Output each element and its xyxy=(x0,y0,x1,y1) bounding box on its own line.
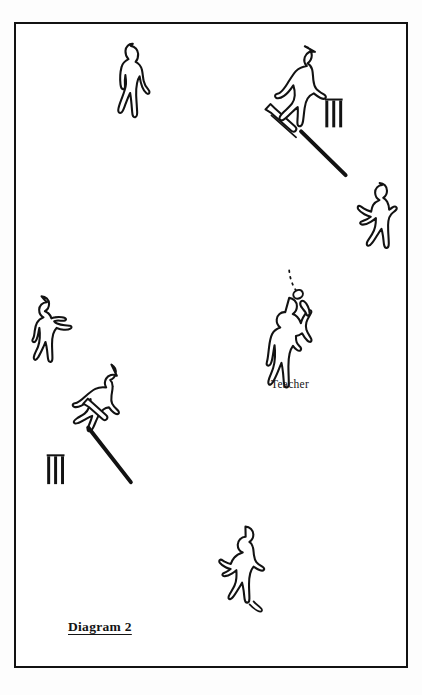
diagram-caption: Diagram 2 xyxy=(68,619,132,635)
figure-teacher xyxy=(267,298,312,388)
running-head-text xyxy=(186,0,418,5)
ball-trajectory-dotted xyxy=(289,270,296,290)
figure-player-top-left xyxy=(118,44,149,117)
wicket-top-right xyxy=(325,100,343,128)
diagram-frame: .fig { fill:#ffffff; stroke:#121212; str… xyxy=(14,22,408,668)
figure-batsman-lower-left xyxy=(68,358,131,482)
teacher-label: Teacher xyxy=(271,378,309,390)
crease-line-lower xyxy=(88,427,131,482)
figure-player-right xyxy=(358,183,397,248)
crease-line-top xyxy=(301,131,346,175)
figure-player-bottom xyxy=(219,527,264,612)
wicket-lower-left xyxy=(47,455,65,484)
scanned-page: .fig { fill:#ffffff; stroke:#121212; str… xyxy=(0,0,422,695)
diagram-illustration: .fig { fill:#ffffff; stroke:#121212; str… xyxy=(16,24,406,666)
figure-player-left xyxy=(32,296,71,362)
ball-and-trajectory xyxy=(289,270,304,300)
